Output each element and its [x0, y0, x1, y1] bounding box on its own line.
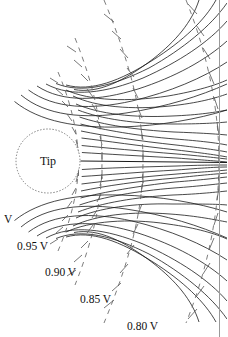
voltage-label-1: V — [4, 213, 13, 225]
field-line — [46, 21, 227, 92]
field-line — [78, 191, 227, 212]
field-line — [74, 232, 199, 322]
field-line — [56, 234, 227, 319]
field-line — [21, 206, 227, 238]
voltage-label-4: 0.85 V — [80, 293, 112, 305]
voltage-label-3: 0.90 V — [45, 266, 77, 278]
field-line — [80, 117, 228, 135]
field-line — [80, 183, 228, 205]
tip-label: Tip — [40, 154, 56, 168]
voltage-label-2: 0.95 V — [17, 240, 49, 252]
field-line-axis — [81, 161, 228, 163]
field-line — [56, 3, 227, 88]
field-line — [82, 170, 228, 184]
field-line — [82, 165, 227, 170]
voltage-label-5: 0.80 V — [127, 320, 159, 332]
field-line — [74, 0, 199, 90]
equipotential-arc — [186, 0, 219, 323]
tip-field-diagram: Tip V 0.95 V 0.90 V 0.85 V 0.80 V — [0, 0, 227, 337]
